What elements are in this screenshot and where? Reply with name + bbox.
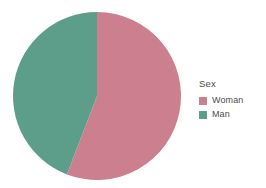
pie-chart-figure: Sex Woman Man	[0, 0, 266, 188]
legend-item-woman[interactable]: Woman	[199, 94, 263, 107]
pie-plot-area	[0, 0, 190, 188]
legend-label-woman: Woman	[212, 95, 243, 106]
legend: Sex Woman Man	[199, 78, 263, 122]
legend-swatch-woman-icon	[199, 97, 207, 105]
pie-svg	[0, 0, 190, 188]
legend-label-man: Man	[212, 109, 230, 120]
legend-swatch-man-icon	[199, 111, 207, 119]
legend-item-man[interactable]: Man	[199, 108, 263, 121]
legend-title: Sex	[199, 78, 263, 90]
